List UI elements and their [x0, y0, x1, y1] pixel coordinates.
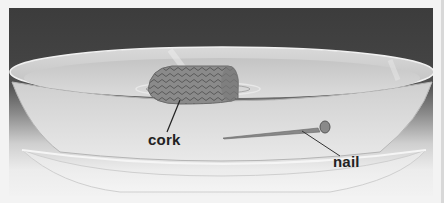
cork-object: [148, 66, 239, 104]
dish-illustration: [9, 8, 433, 196]
cork-label: cork: [148, 131, 181, 148]
photo-frame: [9, 8, 433, 196]
nail-label: nail: [333, 153, 360, 170]
